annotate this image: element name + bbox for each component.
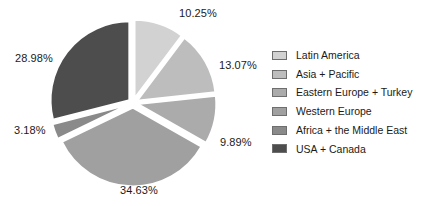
legend-item: Western Europe (272, 102, 430, 121)
pie-svg (0, 0, 270, 206)
pie-slice (50, 21, 129, 120)
slice-percentage-label: 34.63% (120, 184, 158, 196)
legend-item: USA + Canada (272, 139, 430, 158)
legend-color-swatch (272, 88, 287, 97)
slice-percentage-label: 9.89% (220, 136, 252, 148)
legend-color-swatch (272, 51, 287, 60)
legend-item: Asia + Pacific (272, 65, 430, 84)
slice-percentage-label: 10.25% (179, 7, 217, 19)
legend-color-swatch (272, 70, 287, 79)
slice-percentage-label: 28.98% (15, 52, 53, 64)
legend-item-label: USA + Canada (296, 144, 366, 155)
legend-item-label: Asia + Pacific (296, 69, 359, 80)
legend: Latin AmericaAsia + PacificEastern Europ… (272, 46, 430, 158)
legend-item-label: Western Europe (296, 106, 372, 117)
legend-item: Eastern Europe + Turkey (272, 83, 430, 102)
legend-item: Latin America (272, 46, 430, 65)
legend-color-swatch (272, 126, 287, 135)
pie-chart-figure: 10.25%13.07%9.89%34.63%3.18%28.98% Latin… (0, 0, 431, 206)
legend-color-swatch (272, 107, 287, 116)
slice-percentage-label: 3.18% (14, 124, 46, 136)
legend-item-label: Latin America (296, 50, 360, 61)
slice-percentage-label: 13.07% (219, 59, 257, 71)
legend-item: Africa + the Middle East (272, 121, 430, 140)
legend-item-label: Eastern Europe + Turkey (296, 87, 412, 98)
legend-color-swatch (272, 144, 287, 153)
pie-plot-area (0, 0, 270, 206)
legend-item-label: Africa + the Middle East (296, 125, 407, 136)
